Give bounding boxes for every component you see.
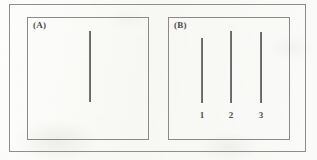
panel-b-line-3-number: 3 xyxy=(254,110,268,120)
panel-b-line-1-number: 1 xyxy=(195,110,209,120)
panel-a-standard-line xyxy=(89,31,91,102)
panel-b-line-2-number: 2 xyxy=(224,110,238,120)
panel-a xyxy=(27,17,149,140)
panel-b-comparison-line-3 xyxy=(260,32,262,103)
figure-root: (A) (B) 1 2 3 xyxy=(0,0,317,160)
panel-b-label: (B) xyxy=(174,20,187,30)
panel-a-label: (A) xyxy=(33,20,46,30)
panel-b xyxy=(168,17,290,140)
panel-b-comparison-line-1 xyxy=(201,38,203,103)
panel-b-comparison-line-2 xyxy=(230,31,232,103)
